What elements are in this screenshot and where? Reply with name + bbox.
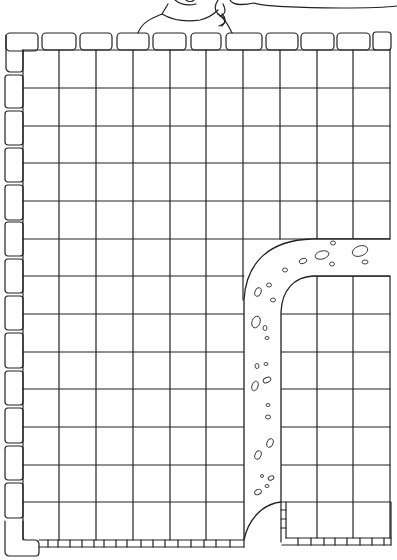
top-wall (6, 32, 391, 51)
left-wall (5, 35, 39, 556)
grid (23, 50, 390, 540)
coloring-page (0, 0, 397, 560)
bottom-wall-right (281, 502, 391, 545)
bottom-wall-left (39, 540, 244, 547)
speech-bubble (230, 0, 397, 8)
character-figure (138, 0, 232, 33)
